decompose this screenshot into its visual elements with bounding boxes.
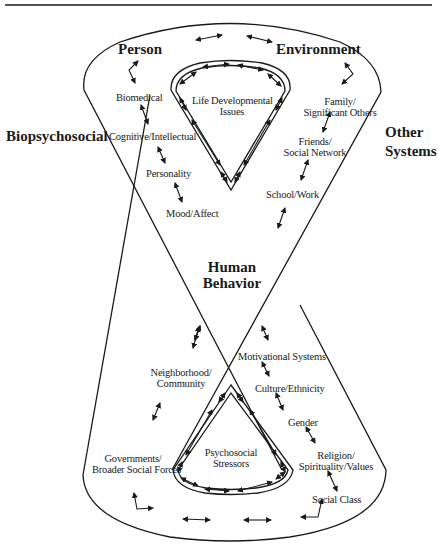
double-arrow-icon: [183, 519, 210, 520]
heading-environment: Environment: [276, 42, 361, 58]
item-governments-social-forces: Governments/ Broader Social Forces: [92, 453, 174, 475]
label-line: Broader Social Forces: [92, 464, 174, 475]
heading-person: Person: [118, 42, 162, 58]
side-label-other: Other: [385, 125, 437, 141]
item-cognitive-intellectual: Cognitive/Intellectual: [109, 131, 196, 142]
label-line: Friends/: [282, 136, 348, 147]
bent-arrow-icon: [129, 61, 138, 83]
double-arrow-icon: [262, 362, 269, 376]
double-arrow-icon: [301, 160, 308, 180]
side-label-systems: Systems: [385, 144, 437, 160]
item-neighborhood-community: Neighborhood/ Community: [146, 367, 216, 389]
item-personality: Personality: [146, 168, 191, 179]
double-arrow-icon: [278, 208, 285, 228]
label-line: Behavior: [197, 276, 267, 292]
double-arrow-icon: [158, 147, 165, 163]
label-line: Neighborhood/: [146, 367, 216, 378]
double-arrow-icon: [247, 36, 272, 42]
double-arrow-icon: [180, 72, 196, 84]
center-label-human-behavior: Human Behavior: [197, 260, 267, 292]
label-line: Issues: [192, 106, 272, 117]
double-arrow-icon: [306, 427, 315, 443]
top-inner-triangle-inner: [176, 66, 285, 183]
double-arrow-icon: [180, 98, 186, 110]
item-social-class: Social Class: [312, 494, 361, 505]
item-friends-social-network: Friends/ Social Network: [282, 136, 348, 158]
inner-label-psychosocial-stressors: Psychosocial Stressors: [200, 447, 262, 469]
label-line: Stressors: [200, 458, 262, 469]
label-line: Life Developmental: [192, 95, 272, 106]
label-line: Human: [197, 260, 267, 276]
label-line: Community: [146, 378, 216, 389]
item-biomedical: Biomedical: [116, 92, 162, 103]
double-arrow-icon: [262, 326, 268, 340]
label-line: Family/: [302, 96, 378, 107]
item-religion-spirituality-values: Religion/ Spirituality/Values: [296, 450, 376, 472]
item-gender: Gender: [288, 417, 318, 428]
bent-arrow-icon: [134, 493, 153, 509]
double-arrow-icon: [192, 120, 220, 165]
double-arrow-icon: [244, 120, 270, 165]
item-motivational-systems: Motivational Systems: [238, 351, 326, 362]
item-family-significant-others: Family/ Significant Others: [302, 96, 378, 118]
double-arrow-icon: [196, 35, 222, 40]
double-arrow-icon: [276, 393, 283, 410]
bent-arrow-icon: [342, 63, 353, 84]
label-line: Governments/: [92, 453, 174, 464]
double-arrow-icon: [328, 471, 337, 491]
side-label-other-systems: Other Systems: [385, 125, 437, 160]
side-label-biopsychosocial: Biopsychosocial: [6, 129, 108, 145]
label-line: Psychosocial: [200, 447, 262, 458]
bottom-inner-triangle: [173, 385, 293, 495]
item-school-work: School/Work: [266, 189, 319, 200]
double-arrow-icon: [193, 327, 199, 348]
label-line: Spirituality/Values: [296, 461, 376, 472]
double-arrow-icon: [219, 393, 225, 402]
label-line: Social Network: [282, 147, 348, 158]
double-arrow-icon: [175, 183, 182, 202]
top-outer-loop: [84, 24, 381, 471]
double-arrow-icon: [181, 478, 198, 486]
inner-label-life-developmental: Life Developmental Issues: [192, 95, 272, 117]
item-culture-ethnicity: Culture/Ethnicity: [255, 383, 325, 394]
item-mood-affect: Mood/Affect: [166, 208, 218, 219]
double-arrow-icon: [268, 74, 281, 86]
label-line: Significant Others: [302, 107, 378, 118]
double-arrow-icon: [153, 403, 160, 420]
label-line: Religion/: [296, 450, 376, 461]
